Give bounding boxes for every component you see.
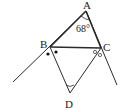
segment-bc [50, 47, 101, 48]
angle-marker-circle-c2 [98, 53, 101, 56]
label-d: D [65, 98, 73, 110]
label-c: C [103, 41, 110, 53]
geometry-figure: A B C D 68° [0, 0, 129, 110]
angle-marker-dot-b1 [46, 52, 49, 55]
angle-marker-circle-c1 [93, 50, 96, 53]
segment-cd [70, 48, 101, 93]
angle-label-68: 68° [76, 23, 90, 34]
label-a: A [83, 0, 91, 11]
label-b: B [40, 38, 47, 50]
angle-marker-dot-b2 [54, 50, 57, 53]
